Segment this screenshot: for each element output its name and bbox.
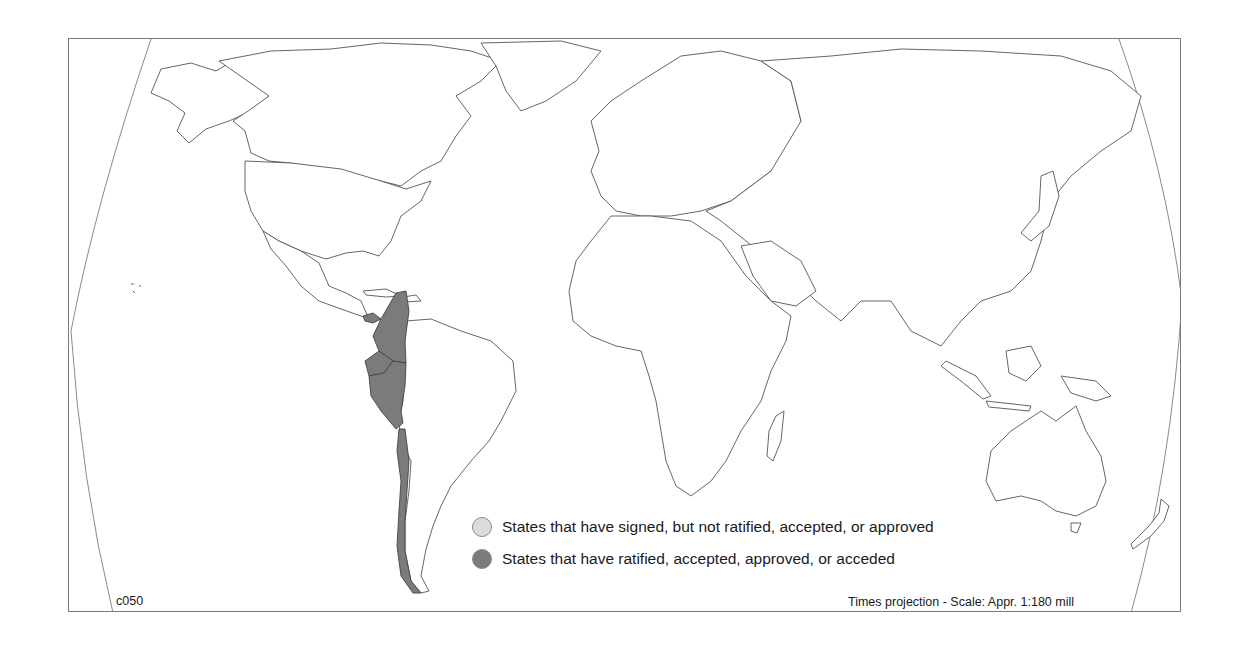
landmass-tasmania [1071,523,1081,533]
landmass-java [986,401,1031,411]
projection-edge-left [71,39,151,612]
legend-item-ratified: States that have ratified, accepted, app… [472,546,934,572]
map-legend: States that have signed, but not ratifie… [472,514,934,578]
landmass-new-guinea [1061,376,1111,401]
map-id-label: c050 [116,594,143,608]
landmass-madagascar [767,411,784,461]
landmass-borneo [1006,346,1041,381]
projection-scale-label: Times projection - Scale: Appr. 1:180 mi… [848,595,1074,609]
legend-label-ratified: States that have ratified, accepted, app… [502,550,895,568]
legend-swatch-signed [472,517,492,537]
legend-swatch-ratified [472,549,492,569]
legend-label-signed: States that have signed, but not ratifie… [502,518,934,536]
legend-item-signed: States that have signed, but not ratifie… [472,514,934,540]
landmass-greenland [481,41,601,111]
landmass-new-zealand [1131,499,1169,549]
landmass-australia [986,406,1106,516]
landmass-sumatra [941,361,991,399]
landmass-hawaii [131,284,141,293]
